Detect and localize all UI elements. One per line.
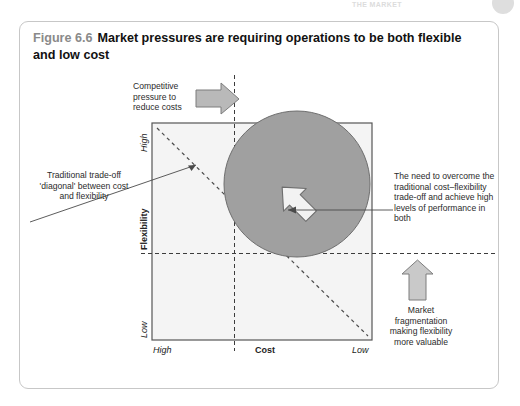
- annotation-competitive-pressure: Competitive pressure to reduce costs: [133, 81, 197, 113]
- x-axis-tick-high: High: [153, 345, 172, 355]
- figure-number: Figure 6.6: [33, 31, 93, 45]
- page-corner-marker: [492, 0, 514, 14]
- page-running-header: THE MARKET: [352, 1, 402, 8]
- y-axis-tick-low: Low: [139, 321, 149, 338]
- x-axis-title: Cost: [255, 345, 275, 355]
- x-axis-tick-low: Low: [352, 345, 369, 355]
- annotation-market-fragmentation: Market fragmentation making flexibility …: [385, 305, 457, 347]
- annotation-traditional-tradeoff: Traditional trade-off 'diagonal' between…: [36, 170, 132, 202]
- annotation-need-to-overcome: The need to overcome the traditional cos…: [394, 171, 498, 224]
- figure-title-text: Market pressures are requiring operation…: [33, 31, 461, 62]
- y-axis-tick-high: High: [139, 133, 149, 152]
- y-axis-title: Flexibility: [139, 208, 149, 250]
- figure-title: Figure 6.6Market pressures are requiring…: [33, 30, 473, 64]
